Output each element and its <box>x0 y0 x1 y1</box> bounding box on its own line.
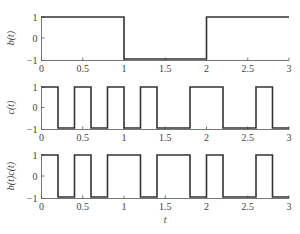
x-tick-label: 2.5 <box>242 63 255 74</box>
x-tick-label: 1.5 <box>159 132 172 143</box>
x-tick-label: 2.5 <box>242 132 255 143</box>
y-axis-label: c(t) <box>5 100 17 115</box>
plot-c-of-t: 10−100.511.522.53c(t) <box>5 82 292 143</box>
signal-line <box>42 155 290 197</box>
x-tick-label: 2 <box>204 132 209 143</box>
x-tick-label: 1.5 <box>159 63 172 74</box>
axes-frame <box>42 154 290 199</box>
x-tick-label: 2 <box>204 63 209 74</box>
y-tick-label: 1 <box>33 82 38 93</box>
x-tick-label: 1 <box>122 132 127 143</box>
y-tick-label: −1 <box>27 55 38 66</box>
x-axis-label: t <box>164 214 167 225</box>
x-tick-label: 0 <box>39 132 44 143</box>
signal-line <box>42 87 290 128</box>
y-tick-label: 0 <box>33 171 38 182</box>
y-tick-label: −1 <box>27 124 38 135</box>
x-tick-label: 1.5 <box>159 201 172 212</box>
x-tick-label: 0 <box>39 201 44 212</box>
plot-b-times-c-of-t: 10−100.511.522.53b(t)c(t)t <box>5 150 292 225</box>
x-tick-label: 2.5 <box>242 201 255 212</box>
x-tick-label: 0.5 <box>77 201 90 212</box>
y-tick-label: 0 <box>33 33 38 44</box>
x-tick-label: 0.5 <box>77 132 90 143</box>
y-tick-label: 1 <box>33 12 38 23</box>
signal-line <box>42 17 290 59</box>
plot-b-of-t: 10−100.511.522.53b(t) <box>5 12 292 74</box>
y-tick-label: 0 <box>33 102 38 113</box>
y-tick-label: 1 <box>33 150 38 161</box>
x-tick-label: 1 <box>122 63 127 74</box>
x-tick-label: 1 <box>122 201 127 212</box>
y-axis-label: b(t)c(t) <box>5 161 17 190</box>
axes-frame <box>42 16 290 61</box>
x-tick-label: 3 <box>287 132 292 143</box>
x-tick-label: 0.5 <box>77 63 90 74</box>
x-tick-label: 3 <box>287 201 292 212</box>
y-tick-label: −1 <box>27 193 38 204</box>
axes-frame <box>42 86 290 130</box>
signal-plots: 10−100.511.522.53b(t) 10−100.511.522.53c… <box>0 0 300 234</box>
x-tick-label: 3 <box>287 63 292 74</box>
x-tick-label: 0 <box>39 63 44 74</box>
x-tick-label: 2 <box>204 201 209 212</box>
y-axis-label: b(t) <box>5 30 17 45</box>
